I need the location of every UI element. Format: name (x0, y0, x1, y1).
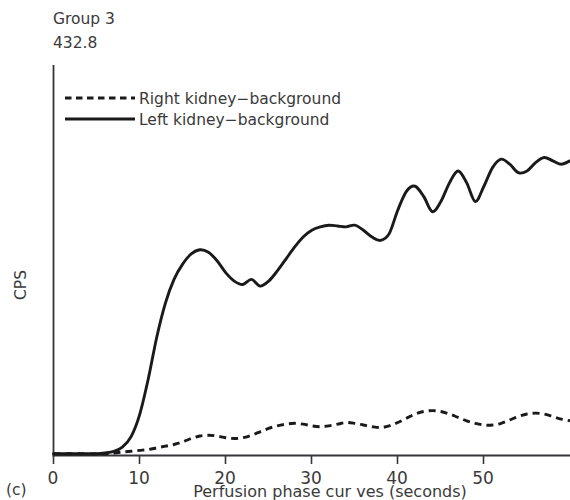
series-left-kidney-background (54, 157, 570, 453)
x-tick-label-50: 50 (472, 468, 494, 488)
x-axis-title: Perfusion phase cur ves (seconds) (193, 482, 467, 500)
panel-label: (c) (6, 481, 27, 499)
x-tick-label-10: 10 (128, 468, 150, 488)
y-axis-title: CPS (12, 270, 30, 300)
x-tick-label-0: 0 (48, 468, 59, 488)
legend-label-right-kidney: Right kidney−background (139, 90, 341, 108)
legend: Right kidney−background Left kidney−back… (65, 90, 341, 129)
group-title: Group 3 (53, 10, 115, 28)
series-right-kidney-background (54, 411, 570, 454)
figure-panel-c: Group 3 432.8 CPS 0 10 20 30 40 50 (0, 0, 570, 500)
x-axis-ticks (54, 456, 484, 465)
group-value: 432.8 (53, 34, 97, 52)
plot-series-group (54, 157, 570, 453)
chart-canvas: Group 3 432.8 CPS 0 10 20 30 40 50 (0, 0, 570, 500)
legend-label-left-kidney: Left kidney−background (139, 111, 329, 129)
